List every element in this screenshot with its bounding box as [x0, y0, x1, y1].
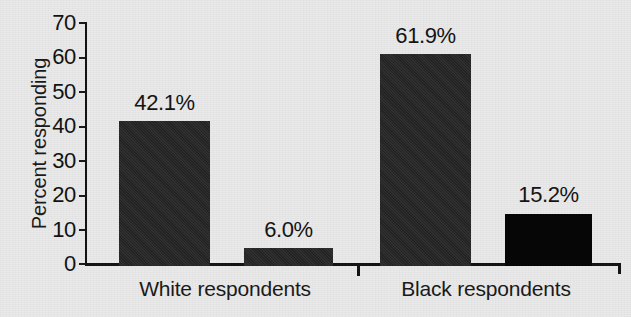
bar-black-respondents-1 [380, 54, 471, 266]
group-divider-tick [357, 263, 360, 276]
bar-white-respondents-2 [244, 248, 333, 266]
x-axis-end-tick [618, 263, 621, 274]
bar-black-respondents-2 [505, 214, 592, 266]
bar-chart: Percent responding 70 60 50 40 30 20 10 … [0, 0, 631, 317]
y-tick-label-50: 50 [30, 81, 76, 103]
y-tick-label-70: 70 [30, 12, 76, 34]
bar-value-label-6-0: 6.0% [244, 219, 333, 241]
y-tick-label-20: 20 [30, 184, 76, 206]
bar-value-label-61-9: 61.9% [380, 25, 471, 47]
y-tick-label-60: 60 [30, 46, 76, 68]
y-tick-label-10: 10 [30, 219, 76, 241]
bar-value-label-15-2: 15.2% [505, 184, 592, 206]
y-tick-label-0: 0 [30, 253, 76, 275]
bar-white-respondents-1 [119, 121, 210, 266]
bar-value-label-42-1: 42.1% [119, 92, 210, 114]
y-axis-line [85, 22, 87, 265]
group-label-white-respondents: White respondents [105, 278, 345, 299]
y-tick-label-30: 30 [30, 150, 76, 172]
y-tick-label-40: 40 [30, 115, 76, 137]
group-label-black-respondents: Black respondents [366, 278, 606, 299]
